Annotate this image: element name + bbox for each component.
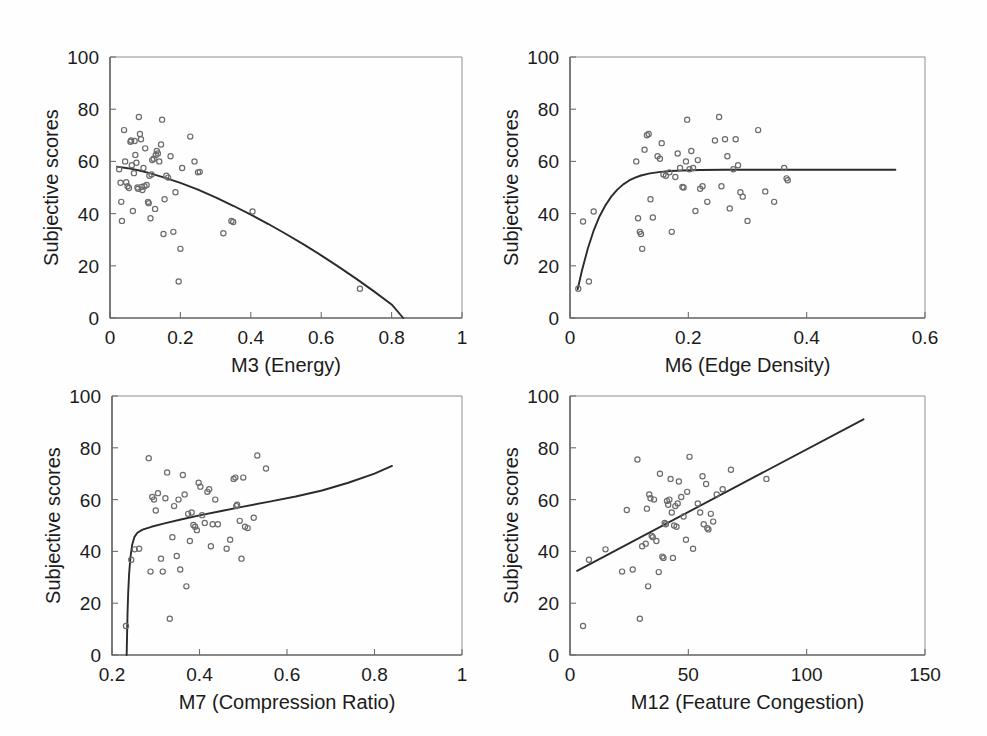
scatter-point (250, 209, 255, 214)
scatter-point (158, 556, 163, 561)
x-tick-label: 0.4 (186, 664, 213, 685)
scatter-point (136, 114, 141, 119)
scatter-point (137, 131, 142, 136)
scatter-point (667, 497, 672, 502)
y-tick-label: 0 (88, 308, 99, 329)
y-tick-label: 80 (538, 99, 559, 120)
scatter-point (151, 156, 156, 161)
scatter-point (162, 197, 167, 202)
scatter-point (650, 215, 655, 220)
scatter-point (202, 520, 207, 525)
scatter-point (157, 159, 162, 164)
x-axis-title: M6 (Edge Density) (665, 354, 831, 376)
x-tick-label: 0.6 (308, 327, 334, 348)
x-tick-label: 0 (565, 327, 576, 348)
scatter-point (687, 167, 692, 172)
scatter-point (192, 159, 197, 164)
y-tick-label: 40 (78, 204, 99, 225)
scatter-point (655, 154, 660, 159)
scatter-point (657, 156, 662, 161)
scatter-point (132, 138, 137, 143)
scatter-point (176, 497, 181, 502)
scatter-point (640, 544, 645, 549)
scatter-point (635, 457, 640, 462)
scatter-point (237, 518, 242, 523)
scatter-point (580, 623, 585, 628)
scatter-point (693, 208, 698, 213)
scatter-point (651, 497, 656, 502)
scatter-point (735, 163, 740, 168)
scatter-point (357, 286, 362, 291)
scatter-point (700, 474, 705, 479)
scatter-point (695, 157, 700, 162)
x-tick-label: 0.4 (793, 327, 820, 348)
scatter-point (210, 522, 215, 527)
scatter-point (648, 197, 653, 202)
scatter-point (148, 216, 153, 221)
scatter-point (634, 159, 639, 164)
scatter-point (695, 501, 700, 506)
scatter-point (118, 180, 123, 185)
y-tick-label: 20 (538, 256, 559, 277)
scatter-point (700, 184, 705, 189)
y-tick-label: 80 (538, 438, 559, 459)
scatter-point (782, 165, 787, 170)
scatter-point (705, 199, 710, 204)
scatter-point (129, 138, 134, 143)
scatter-point (172, 503, 177, 508)
scatter-point (674, 524, 679, 529)
scatter-point (681, 185, 686, 190)
scatter-point (187, 538, 192, 543)
scatter-point (666, 502, 671, 507)
scatter-point (121, 127, 126, 132)
scatter-points (117, 114, 363, 291)
scatter-point (146, 456, 151, 461)
panel-m6-edge-density: 02040608010000.20.40.6M6 (Edge Density)S… (0, 0, 987, 736)
scatter-point (125, 184, 130, 189)
x-tick-label: 0.6 (912, 327, 938, 348)
scatter-point (624, 507, 629, 512)
scatter-point (251, 515, 256, 520)
scatter-point (158, 142, 163, 147)
scatter-point (738, 190, 743, 195)
scatter-point (657, 471, 662, 476)
scatter-point (677, 165, 682, 170)
scatter-point (153, 152, 158, 157)
x-tick-label: 50 (678, 664, 699, 685)
scatter-point (229, 218, 234, 223)
figure-root: 02040608010000.20.40.60.81M3 (Energy)Sub… (0, 0, 987, 736)
scatter-point (151, 497, 156, 502)
scatter-point (586, 557, 591, 562)
scatter-point (712, 138, 717, 143)
scatter-point (138, 137, 143, 142)
scatter-point (198, 484, 203, 489)
scatter-point (648, 496, 653, 501)
scatter-point (669, 229, 674, 234)
scatter-point (119, 199, 124, 204)
scatter-point (698, 510, 703, 515)
scatter-point (134, 160, 139, 165)
scatter-point (140, 188, 145, 193)
scatter-point (772, 199, 777, 204)
scatter-point (137, 546, 142, 551)
scatter-point (207, 487, 212, 492)
y-axis-title: Subjective scores (40, 109, 62, 266)
scatter-point (135, 185, 140, 190)
scatter-point (722, 137, 727, 142)
scatter-point (681, 514, 686, 519)
scatter-point (197, 169, 202, 174)
panel-m12-feature-congestion: 020406080100050100150M12 (Feature Conges… (0, 0, 987, 736)
scatter-point (669, 510, 674, 515)
scatter-point (128, 139, 133, 144)
scatter-point (195, 170, 200, 175)
scatter-point (638, 231, 643, 236)
scatter-point (144, 182, 149, 187)
scatter-point (171, 229, 176, 234)
scatter-point (245, 525, 250, 530)
scatter-point (161, 231, 166, 236)
fit-curve (117, 167, 403, 318)
scatter-point (208, 544, 213, 549)
scatter-point (733, 137, 738, 142)
scatter-point (731, 167, 736, 172)
scatter-point (675, 501, 680, 506)
